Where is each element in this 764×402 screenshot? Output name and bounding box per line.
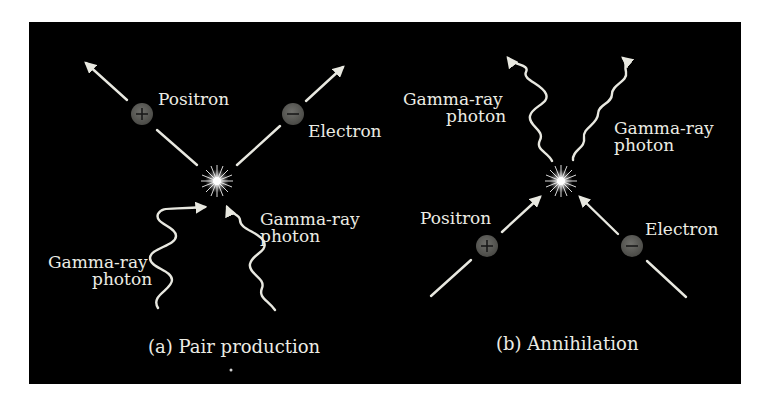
annihilation-panel: Gamma-ray photon Gamma-ray photon Positr… [403,58,719,354]
electron-track-lower [237,126,280,165]
electron-track-in-lower [647,261,686,297]
positron-track-in-arrow [502,197,540,232]
positron-label: Positron [158,89,229,109]
gamma-ray-left-wave [150,207,205,308]
positron-track-in-lower [431,260,471,296]
gamma-out-left-label-line2: photon [446,106,506,126]
positron-track-arrow [86,63,127,100]
gamma-left-label-line2: photon [92,269,152,289]
electron-label-b: Electron [645,219,719,239]
interaction-burst-icon [201,165,233,197]
electron-track-arrow [306,67,343,101]
pair-production-panel: Positron Electron Gamma-ray photon Gamma… [48,63,382,372]
electron-particle [282,103,304,125]
caption-annihilation: (b) Annihilation [496,333,639,354]
positron-label-b: Positron [420,208,491,228]
caption-pair-production: (a) Pair production [148,336,321,357]
gamma-right-label-line2: photon [260,226,320,246]
gamma-out-right-label-line2: photon [614,135,674,155]
electron-track-in-arrow [580,197,618,234]
interaction-burst-icon-b [545,165,577,197]
diagram-canvas: Positron Electron Gamma-ray photon Gamma… [0,0,764,402]
positron-particle-b [476,235,498,257]
stray-dot [230,369,233,372]
electron-label: Electron [308,121,382,141]
positron-track-lower [157,130,197,165]
positron-particle [131,103,153,125]
electron-particle-b [621,235,643,257]
gamma-ray-out-left-wave [508,58,552,161]
